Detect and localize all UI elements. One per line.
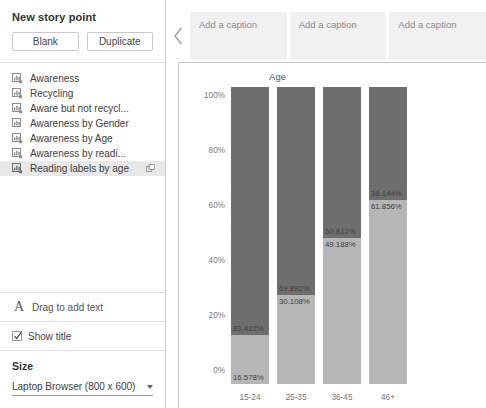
worksheet-icon <box>12 73 23 84</box>
caption-boxes: Add a caption Add a caption Add a captio… <box>190 12 486 60</box>
bar-column-0[interactable]: 83.422% 16.578% <box>231 87 269 384</box>
bars-area: 83.422% 16.578% 69.892% 30.108% <box>231 87 486 408</box>
drag-to-add-text-label: Drag to add text <box>32 302 103 313</box>
bar-segment-top-label: 38.144% <box>371 189 402 198</box>
x-tick-label: 36-45 <box>323 393 361 402</box>
bar-segment-bottom[interactable]: 30.108% <box>277 295 315 384</box>
caption-box-3[interactable]: Add a caption <box>389 12 486 60</box>
sheet-item-label: Awareness by Age <box>30 133 155 144</box>
bar-segment-top[interactable]: 69.892% <box>277 87 315 295</box>
bar-segment-top[interactable]: 50.812% <box>323 87 361 238</box>
story-editor-app: New story point Blank Duplicate Awarenes… <box>0 0 486 408</box>
sheet-item-reading-labels-by-age[interactable]: Reading labels by age <box>0 161 165 176</box>
drag-to-add-text[interactable]: A Drag to add text <box>0 293 165 321</box>
size-section: Size Laptop Browser (800 x 600) <box>0 351 165 408</box>
worksheet-icon <box>12 148 23 159</box>
bar-segment-bottom-label: 16.578% <box>233 373 264 382</box>
bar-segment-top-label: 50.812% <box>325 227 356 236</box>
page-title: New story point <box>0 0 165 23</box>
sheet-item-awareness-by-gender[interactable]: Awareness by Gender <box>0 116 165 131</box>
x-tick-label: 15-24 <box>231 393 269 402</box>
story-canvas: Add a caption Add a caption Add a captio… <box>166 0 486 408</box>
sheet-item-label: Awareness <box>30 73 155 84</box>
bar-segment-top[interactable]: 38.144% <box>369 87 407 200</box>
y-tick-label: 20% <box>209 311 225 320</box>
story-point-button-group: Blank Duplicate <box>0 23 165 62</box>
worksheet-icon <box>12 103 23 114</box>
caption-strip: Add a caption Add a caption Add a captio… <box>166 0 486 62</box>
y-tick-label: 100% <box>204 91 225 100</box>
bar-column-2[interactable]: 50.812% 49.188% <box>323 87 361 384</box>
sheet-item-awareness[interactable]: Awareness <box>0 71 165 86</box>
story-sidebar: New story point Blank Duplicate Awarenes… <box>0 0 166 408</box>
sheet-item-label: Aware but not recycl... <box>30 103 155 114</box>
bar-segment-bottom-label: 30.108% <box>279 297 310 306</box>
text-icon: A <box>12 299 26 315</box>
plot-area: % of Total Number of Records 100% 80% 60… <box>179 87 486 408</box>
blank-button[interactable]: Blank <box>12 32 79 51</box>
show-title-label: Show title <box>28 331 71 342</box>
sheet-item-awareness-by-age[interactable]: Awareness by Age <box>0 131 165 146</box>
sidebar-spacer <box>0 182 165 292</box>
y-tick-label: 40% <box>209 256 225 265</box>
size-select[interactable]: Laptop Browser (800 x 600) <box>12 381 153 396</box>
bar-segment-bottom[interactable]: 49.188% <box>323 238 361 384</box>
bar-segment-bottom-label: 49.188% <box>325 240 356 249</box>
sheet-item-label: Awareness by readi... <box>30 148 155 159</box>
bar-segment-top-label: 83.422% <box>233 324 264 333</box>
sheet-item-label: Recycling <box>30 88 155 99</box>
worksheet-icon <box>12 163 23 174</box>
y-axis-ticks: 100% 80% 60% 40% 20% 0% <box>193 87 227 408</box>
worksheet-icon <box>12 88 23 99</box>
chart-title: Age <box>179 63 486 82</box>
sheet-item-awareness-by-reading[interactable]: Awareness by readi... <box>0 146 165 161</box>
y-tick-label: 0% <box>213 366 225 375</box>
chevron-down-icon <box>147 385 153 389</box>
bar-segment-bottom[interactable]: 16.578% <box>231 335 269 384</box>
x-tick-label: 25-35 <box>277 393 315 402</box>
sheet-item-aware-but-not-recycling[interactable]: Aware but not recycl... <box>0 101 165 116</box>
sheet-item-label: Reading labels by age <box>30 163 142 174</box>
sheet-list: Awareness Recycling <box>0 63 165 182</box>
size-select-value: Laptop Browser (800 x 600) <box>12 381 143 392</box>
caption-box-1[interactable]: Add a caption <box>190 12 287 60</box>
chart-container: Age % of Total Number of Records 100% 80… <box>178 62 486 408</box>
bar-column-1[interactable]: 69.892% 30.108% <box>277 87 315 384</box>
bar-column-3[interactable]: 38.144% 61.856% <box>369 87 407 384</box>
caption-box-2[interactable]: Add a caption <box>290 12 387 60</box>
dashboard-icon <box>12 118 23 129</box>
bar-segment-bottom-label: 61.856% <box>371 202 402 211</box>
bar-segment-top[interactable]: 83.422% <box>231 87 269 335</box>
x-axis-labels: 15-24 25-35 36-45 46+ <box>231 393 407 402</box>
sheet-item-label: Awareness by Gender <box>30 118 155 129</box>
show-title-row[interactable]: Show title <box>0 322 165 350</box>
bar-segment-top-label: 69.892% <box>279 284 310 293</box>
x-tick-label: 46+ <box>369 393 407 402</box>
show-title-checkbox[interactable] <box>12 331 22 341</box>
sheet-item-recycling[interactable]: Recycling <box>0 86 165 101</box>
chevron-left-icon[interactable] <box>166 12 190 60</box>
duplicate-button[interactable]: Duplicate <box>87 32 154 51</box>
external-link-icon[interactable] <box>146 164 155 173</box>
y-tick-label: 60% <box>209 201 225 210</box>
bar-group: 83.422% 16.578% 69.892% 30.108% <box>231 87 407 384</box>
y-tick-label: 80% <box>209 146 225 155</box>
size-heading: Size <box>12 360 153 372</box>
worksheet-icon <box>12 133 23 144</box>
bar-segment-bottom[interactable]: 61.856% <box>369 200 407 384</box>
